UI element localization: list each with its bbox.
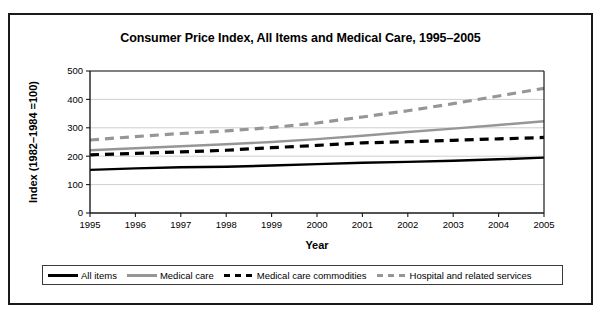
x-tick-label: 2000 <box>306 219 327 230</box>
plot-area: 0100200300400500 19951996199719981999200… <box>10 15 595 307</box>
x-tick-label: 1997 <box>170 219 191 230</box>
series-line <box>90 88 544 140</box>
legend-swatch-icon <box>127 270 157 280</box>
y-axis-title: Index (1982–1984 =100) <box>27 81 39 203</box>
y-tick-label: 300 <box>67 122 83 133</box>
legend-item[interactable]: All items <box>48 270 127 281</box>
figure-panel: Consumer Price Index, All Items and Medi… <box>8 13 593 305</box>
x-tick-label: 1998 <box>216 219 237 230</box>
legend-label: Medical care <box>160 270 214 281</box>
x-tick-label: 2002 <box>397 219 418 230</box>
line-chart-svg: 0100200300400500 19951996199719981999200… <box>10 15 595 307</box>
x-axis-ticks: 1995199619971998199920002001200220032004… <box>79 213 554 230</box>
legend-swatch-icon <box>377 270 407 280</box>
x-tick-label: 2003 <box>443 219 464 230</box>
x-tick-label: 2004 <box>488 219 509 230</box>
x-tick-label: 1999 <box>261 219 282 230</box>
legend-label: Hospital and related services <box>410 270 532 281</box>
legend-label: All items <box>81 270 117 281</box>
y-tick-label: 200 <box>67 151 83 162</box>
y-axis-ticks: 0100200300400500 <box>67 65 90 218</box>
y-tick-label: 0 <box>78 207 83 218</box>
series-line <box>90 158 544 170</box>
legend-item[interactable]: Medical care commodities <box>224 270 377 281</box>
y-tick-label: 400 <box>67 94 83 105</box>
y-tick-label: 100 <box>67 179 83 190</box>
x-tick-label: 2005 <box>533 219 554 230</box>
legend-item[interactable]: Hospital and related services <box>377 270 542 281</box>
y-tick-label: 500 <box>67 65 83 76</box>
x-tick-label: 1996 <box>125 219 146 230</box>
legend-label: Medical care commodities <box>257 270 367 281</box>
legend-swatch-icon <box>224 270 254 280</box>
x-axis-title: Year <box>305 239 329 251</box>
legend-swatch-icon <box>48 270 78 280</box>
x-tick-label: 1995 <box>79 219 100 230</box>
series-group <box>90 88 544 170</box>
x-tick-label: 2001 <box>352 219 373 230</box>
chart-legend: All itemsMedical careMedical care commod… <box>42 265 563 285</box>
legend-item[interactable]: Medical care <box>127 270 224 281</box>
